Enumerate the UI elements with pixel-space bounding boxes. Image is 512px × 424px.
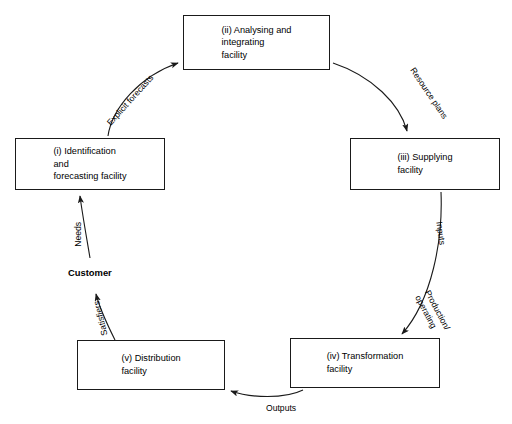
edge-resource-plans — [333, 63, 407, 131]
node-identification-forecasting-facility-label: (i) Identification and forecasting facil… — [53, 145, 126, 183]
cyclical-process-diagram: (ii) Analysing and integrating facility … — [0, 0, 512, 424]
node-transformation-facility[interactable]: (iv) Transformation facility — [290, 338, 440, 388]
edge-outputs — [231, 390, 303, 397]
node-analysing-integrating-facility[interactable]: (ii) Analysing and integrating facility — [183, 15, 330, 70]
node-identification-forecasting-facility[interactable]: (i) Identification and forecasting facil… — [15, 138, 165, 190]
customer-label: Customer — [68, 267, 112, 278]
node-distribution-facility-label: (v) Distribution facility — [121, 352, 180, 377]
node-distribution-facility[interactable]: (v) Distribution facility — [77, 340, 225, 390]
node-supplying-facility[interactable]: (iii) Supplying facility — [350, 138, 500, 190]
node-transformation-facility-label: (iv) Transformation facility — [327, 350, 404, 375]
edge-label-outputs: Outputs — [266, 403, 296, 414]
edge-explicit-forecasts — [108, 63, 178, 136]
edge-label-needs: Needs — [73, 222, 84, 247]
node-supplying-facility-label: (iii) Supplying facility — [397, 151, 452, 176]
node-analysing-integrating-facility-label: (ii) Analysing and integrating facility — [222, 24, 292, 62]
